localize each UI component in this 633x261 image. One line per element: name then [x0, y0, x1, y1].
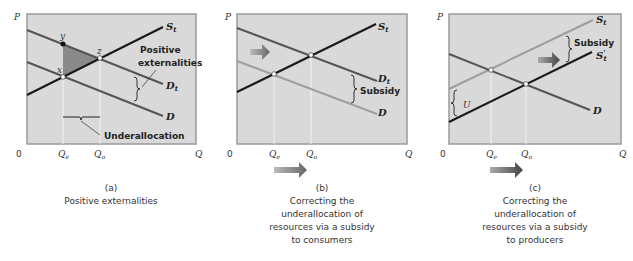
- subsidy-label: Subsidy: [360, 86, 400, 96]
- externalities-label: externalities: [138, 58, 202, 68]
- caption-line: underallocation of: [460, 208, 610, 221]
- qe-label: Qe: [269, 149, 280, 160]
- panel-b-caption: (b) Correcting the underallocation of re…: [247, 182, 397, 247]
- d-label: D: [592, 105, 602, 116]
- caption-line: to consumers: [247, 234, 397, 247]
- quantity-axis-label: Q: [619, 149, 627, 159]
- d-label: D: [377, 107, 387, 118]
- panel-c: P 0 Q Qe Qo St S't D Subsidy U: [436, 12, 627, 178]
- panel-b: P 0 Q Qe Qo St Dt D Subsidy: [224, 12, 413, 178]
- caption-line: underallocation of: [247, 208, 397, 221]
- quantity-increase-arrow: [274, 162, 307, 178]
- caption-line: resources via a subsidy: [460, 221, 610, 234]
- caption-line: to producers: [460, 234, 610, 247]
- qe-label: Qe: [58, 149, 69, 160]
- qe-label: Qe: [486, 149, 497, 160]
- quantity-axis-label: Q: [405, 149, 413, 159]
- point-y: [61, 42, 66, 47]
- qo-label: Qo: [306, 149, 317, 160]
- subsidy-label: Subsidy: [574, 38, 614, 48]
- panel-letter: (b): [247, 182, 397, 195]
- panel-c-caption: (c) Correcting the underallocation of re…: [460, 182, 610, 247]
- point-y-label: y: [59, 31, 66, 41]
- origin-label: 0: [16, 149, 22, 159]
- underallocation-label: Underallocation: [104, 131, 185, 141]
- panel-a: P 0 Q Qe Qo St Dt D y x z Positive exter…: [13, 12, 203, 160]
- d-label: D: [165, 111, 175, 122]
- positive-label: Positive: [140, 45, 181, 55]
- caption-line: Correcting the: [460, 195, 610, 208]
- initial-equilibrium: [272, 72, 277, 77]
- price-axis-label: P: [436, 12, 444, 22]
- point-x: [61, 75, 66, 80]
- caption-line: resources via a subsidy: [247, 221, 397, 234]
- point-x-label: x: [57, 65, 62, 75]
- panel-a-plot-area: [27, 14, 196, 144]
- quantity-increase-arrow: [490, 162, 523, 178]
- initial-equilibrium: [489, 68, 494, 73]
- new-equilibrium: [309, 53, 314, 58]
- qo-label: Qo: [521, 149, 532, 160]
- origin-label: 0: [227, 149, 233, 159]
- point-z: [98, 56, 103, 61]
- point-z-label: z: [96, 46, 102, 56]
- caption-line: Correcting the: [247, 195, 397, 208]
- panel-letter: (c): [460, 182, 610, 195]
- panel-a-caption: (a) Positive externalities: [36, 182, 186, 208]
- panel-letter: (a): [36, 182, 186, 195]
- quantity-axis-label: Q: [195, 149, 203, 159]
- new-equilibrium: [524, 82, 529, 87]
- u-label: U: [463, 100, 471, 110]
- qo-label: Qo: [94, 149, 105, 160]
- origin-label: 0: [440, 149, 446, 159]
- price-axis-label: P: [13, 12, 21, 22]
- caption-line: Positive externalities: [36, 195, 186, 208]
- price-axis-label: P: [224, 12, 232, 22]
